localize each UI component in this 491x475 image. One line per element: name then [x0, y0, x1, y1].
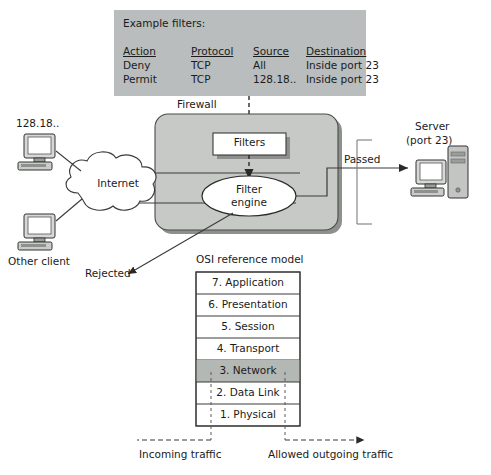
filters-box-label: Filters	[213, 137, 286, 149]
filters-row-1-source: 128.18..	[253, 74, 296, 86]
filters-column-header-action: Action	[123, 46, 156, 58]
osi-layer-7: 7. Application	[196, 277, 300, 289]
server-label-line2: (port 23)	[406, 135, 452, 147]
server-label-line1: Server	[415, 121, 449, 133]
outgoing-traffic-label: Allowed outgoing traffic	[268, 449, 393, 461]
client-bottom-label: Other client	[8, 256, 70, 268]
filters-row-1-destination: Inside port 23	[306, 74, 379, 86]
filters-row-0-protocol: TCP	[191, 60, 210, 72]
filters-column-header-destination: Destination	[306, 46, 366, 58]
osi-layer-6: 6. Presentation	[196, 299, 300, 311]
osi-layer-4: 4. Transport	[196, 343, 300, 355]
firewall-diagram: Example filters: Action Protocol Source …	[0, 0, 491, 475]
filter-engine-label-line1: Filter	[202, 184, 296, 196]
client-computer-top-icon	[18, 134, 55, 170]
osi-layer-1: 1. Physical	[196, 409, 300, 421]
osi-layer-5: 5. Session	[196, 321, 300, 333]
incoming-traffic-label: Incoming traffic	[139, 449, 222, 461]
client-top-label: 128.18..	[16, 118, 59, 130]
filters-row-1-action: Permit	[123, 74, 157, 86]
passed-label: Passed	[344, 154, 380, 166]
server-icon	[411, 146, 468, 198]
filters-column-header-source: Source	[253, 46, 289, 58]
filters-row-0-destination: Inside port 23	[306, 60, 379, 72]
osi-layer-3-network-highlighted: 3. Network	[196, 365, 300, 377]
osi-title: OSI reference model	[196, 254, 304, 266]
rejected-label: Rejected	[85, 268, 131, 280]
filters-row-0-action: Deny	[123, 60, 150, 72]
internet-cloud-label: Internet	[88, 178, 148, 190]
filters-row-1-protocol: TCP	[191, 74, 210, 86]
client-computer-bottom-icon	[18, 214, 55, 250]
firewall-label: Firewall	[177, 99, 217, 111]
example-filters-caption: Example filters:	[123, 18, 205, 30]
diagram-canvas	[0, 0, 491, 475]
filter-engine-label-line2: engine	[202, 197, 296, 209]
filters-row-0-source: All	[253, 60, 266, 72]
osi-layer-2: 2. Data Link	[196, 387, 300, 399]
filters-column-header-protocol: Protocol	[191, 46, 233, 58]
